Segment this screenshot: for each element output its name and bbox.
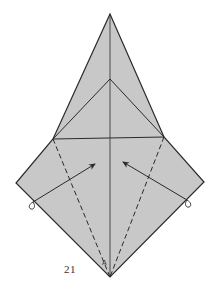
origami-diagram [0, 0, 216, 291]
left-arrow-tail-loop-icon [29, 202, 34, 209]
step-number: 21 [64, 263, 76, 275]
point-label-a: A [102, 259, 107, 266]
right-arrow-tail-loop-icon [186, 200, 191, 207]
